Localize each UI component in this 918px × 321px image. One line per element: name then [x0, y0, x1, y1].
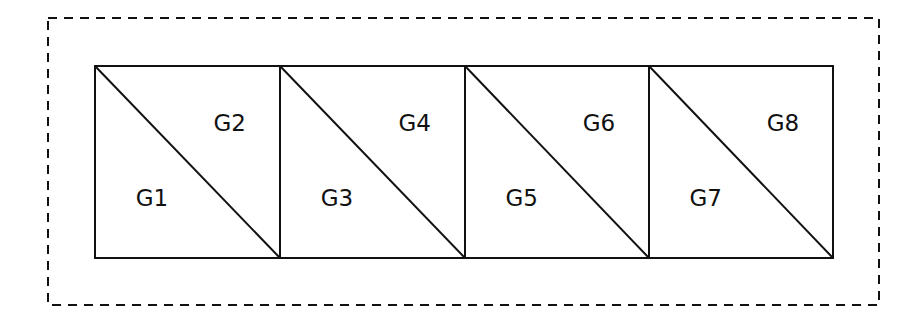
upper-triangle-label: G6	[583, 110, 615, 136]
diagonal-divider	[95, 66, 280, 258]
lower-triangle-label: G5	[505, 185, 537, 211]
upper-triangle-label: G4	[398, 110, 430, 136]
grid-cell: G5G6	[465, 66, 649, 258]
diagonal-divider	[465, 66, 649, 258]
upper-triangle-label: G2	[213, 110, 245, 136]
lower-triangle-label: G3	[321, 185, 353, 211]
upper-triangle-label: G8	[767, 110, 799, 136]
grid-cell: G1G2	[95, 66, 280, 258]
diagonal-divider	[280, 66, 465, 258]
diagonal-divider	[649, 66, 833, 258]
grid-cell: G3G4	[280, 66, 465, 258]
dashed-outer-boundary	[48, 18, 879, 305]
grid-diagram: G1G2G3G4G5G6G7G8	[0, 0, 918, 321]
cell-strip: G1G2G3G4G5G6G7G8	[95, 66, 833, 258]
lower-triangle-label: G7	[689, 185, 721, 211]
grid-cell: G7G8	[649, 66, 833, 258]
lower-triangle-label: G1	[136, 185, 168, 211]
